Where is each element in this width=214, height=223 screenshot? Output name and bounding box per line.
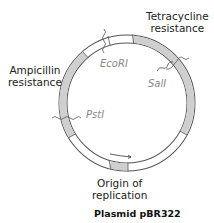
ampicillin-gene-arc — [63, 55, 85, 137]
tetracycline-label-line1: Tetracycline — [146, 10, 209, 22]
origin-label-line2: replication — [92, 189, 147, 201]
origin-label-line1: Origin of — [92, 177, 147, 189]
origin-arc — [110, 165, 128, 167]
psti-site-label: PstI — [86, 109, 104, 120]
ampicillin-label-line2: resistance — [8, 76, 62, 88]
diagram-title: Plasmid pBR322 — [94, 208, 181, 219]
sali-site-label: SalI — [148, 78, 166, 89]
ampicillin-label: Ampicillin resistance — [8, 64, 62, 88]
tetracycline-label-line2: resistance — [146, 22, 209, 34]
ampicillin-label-line1: Ampicillin — [8, 64, 62, 76]
tetracycline-label: Tetracycline resistance — [146, 10, 209, 34]
arrow-icon — [110, 154, 131, 157]
ecori-site-label: EcoRI — [100, 58, 128, 69]
origin-label: Origin of replication — [92, 177, 147, 201]
